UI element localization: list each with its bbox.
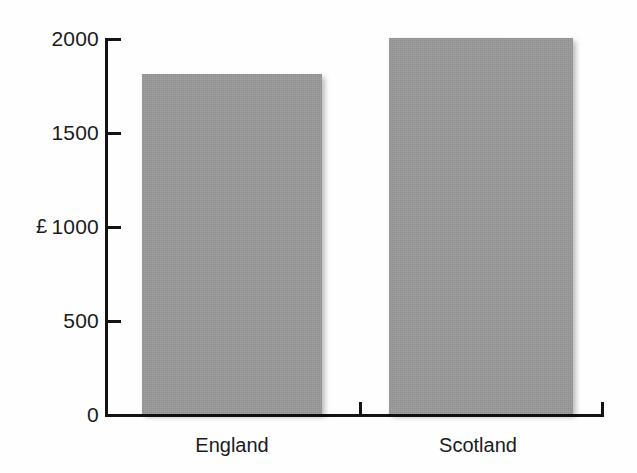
y-axis-tick-1500: 1500 <box>108 132 121 135</box>
y-axis-unit-label: £ <box>36 215 47 238</box>
y-axis-tick-label-500: 500 <box>63 309 99 333</box>
bar-chart-figure: 2000 1500 1000 500 0 England Scotland £ <box>0 0 637 473</box>
y-axis-tick-2000: 2000 <box>108 38 121 41</box>
y-axis-tick-1000: 1000 <box>108 226 121 229</box>
x-axis-label-scotland: Scotland <box>439 434 517 457</box>
x-axis-label-england: England <box>195 434 268 457</box>
bar-texture <box>142 74 322 414</box>
x-axis-tick-end <box>601 402 604 414</box>
bar-england <box>142 74 322 414</box>
x-axis-tick-divider <box>359 402 362 414</box>
bar-scotland <box>389 38 573 414</box>
y-axis-tick-label-2000: 2000 <box>51 27 99 51</box>
y-axis-tick-label-1500: 1500 <box>51 121 99 145</box>
bar-texture <box>389 38 573 414</box>
y-axis-tick-label-0: 0 <box>87 403 99 427</box>
plot-area: 2000 1500 1000 500 0 England Scotland <box>108 38 604 414</box>
y-axis-tick-500: 500 <box>108 320 121 323</box>
x-axis-line <box>105 414 604 417</box>
y-axis-tick-label-1000: 1000 <box>51 215 99 239</box>
